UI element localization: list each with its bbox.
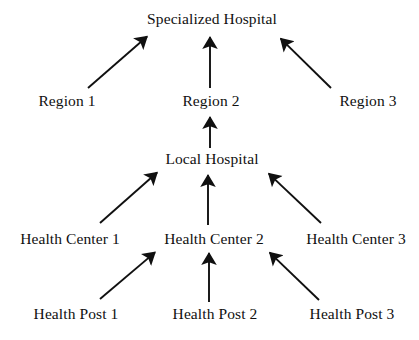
node-health-center-1: Health Center 1: [20, 230, 120, 247]
node-health-center-3: Health Center 3: [306, 230, 406, 247]
node-specialized-hospital: Specialized Hospital: [147, 10, 277, 27]
node-region-1: Region 1: [38, 92, 95, 109]
referral-hierarchy-diagram: Specialized Hospital Region 1 Region 2 R…: [0, 0, 419, 340]
arrow-health-post-1-to-health-center-2: [100, 252, 155, 299]
arrow-region-3-to-specialized-hospital: [281, 39, 331, 88]
node-health-post-2: Health Post 2: [173, 305, 258, 322]
node-region-3: Region 3: [339, 92, 396, 109]
node-health-post-1: Health Post 1: [34, 305, 119, 322]
arrow-layer: [0, 0, 419, 340]
node-local-hospital: Local Hospital: [165, 150, 258, 167]
arrow-group: [88, 36, 331, 302]
node-region-2: Region 2: [182, 92, 239, 109]
node-health-post-3: Health Post 3: [310, 305, 395, 322]
node-health-center-2: Health Center 2: [164, 230, 264, 247]
arrow-health-post-3-to-health-center-2: [270, 253, 319, 300]
arrow-region-1-to-specialized-hospital: [88, 36, 147, 88]
arrow-health-center-3-to-local-hospital: [269, 174, 321, 223]
arrow-health-center-1-to-local-hospital: [100, 172, 157, 223]
